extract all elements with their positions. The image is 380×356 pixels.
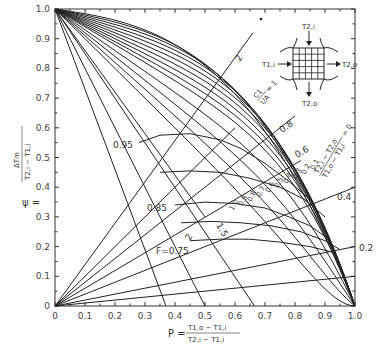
svg-text:T2,i − T1,i: T2,i − T1,i bbox=[187, 336, 224, 344]
svg-text:T1,o − T1,i: T1,o − T1,i bbox=[187, 324, 227, 332]
arrow-right-icon bbox=[287, 61, 292, 67]
ntu-label-0-8: 0.8 bbox=[277, 118, 295, 135]
y-tick-label: 0.4 bbox=[36, 182, 51, 192]
ntu-label-2: 2 bbox=[233, 53, 245, 63]
svg-text:ΔTm: ΔTm bbox=[13, 152, 21, 168]
arrow-down-icon bbox=[306, 92, 312, 97]
x-tick-label: 0.8 bbox=[288, 311, 303, 321]
f-label-0-75: F=0.75 bbox=[156, 246, 189, 256]
x-tick-label: 0.7 bbox=[258, 311, 272, 321]
x-tick-label: 0.9 bbox=[318, 311, 333, 321]
stray-dot bbox=[260, 18, 263, 21]
inset-label-bottom: T2,o bbox=[301, 100, 317, 108]
f-label-0-85: 0.85 bbox=[147, 203, 167, 213]
y-tick-label: 0.9 bbox=[36, 34, 51, 44]
ntu-line bbox=[55, 33, 253, 306]
x-tick-label: 1.0 bbox=[348, 311, 363, 321]
crossflow-exchanger-diagram: T2,i T1,i T2,o T2,o bbox=[261, 23, 357, 108]
y-tick-label: 0.8 bbox=[36, 63, 51, 73]
f-curve bbox=[181, 221, 340, 249]
y-tick-label: 0.3 bbox=[36, 212, 50, 222]
y-tick-label: 1.0 bbox=[36, 4, 51, 14]
svg-text:ψ =: ψ = bbox=[22, 197, 40, 208]
y-tick-label: 0.5 bbox=[36, 153, 50, 163]
x-tick-label: 0.1 bbox=[78, 311, 92, 321]
y-tick-label: 0.7 bbox=[36, 93, 50, 103]
y-axis-title: ψ = ΔTm T2,i − T1,i bbox=[13, 126, 40, 208]
inset-label-left: T1,i bbox=[261, 61, 275, 69]
ntu-line bbox=[55, 128, 235, 306]
y-tick-label: 0.6 bbox=[36, 123, 51, 133]
x-tick-label: 0.6 bbox=[228, 311, 243, 321]
svg-text:= 1: = 1 bbox=[264, 79, 278, 94]
x-tick-label: 0 bbox=[52, 311, 58, 321]
r-line bbox=[55, 9, 205, 217]
exchanger-grid bbox=[293, 48, 324, 79]
ntu-label-0-2: 0.2 bbox=[359, 243, 373, 253]
ntu-line bbox=[55, 276, 355, 306]
inset-label-right: T2,o bbox=[341, 61, 357, 69]
inset-label-top: T2,i bbox=[301, 23, 315, 31]
arrow-down-icon bbox=[306, 41, 312, 46]
y-tick-label: 0.2 bbox=[36, 242, 50, 252]
chart-canvas: 00.10.20.30.40.50.60.70.80.91.000.10.20.… bbox=[0, 0, 380, 356]
ntu-label-1: C1 UA = 1 bbox=[251, 76, 281, 107]
r-value-labels: 1.00.90.80.70.60.50.40.30.20.1 bbox=[228, 158, 321, 212]
x-axis-title: P = T1,o − T1,i T2,i − T1,i bbox=[168, 324, 240, 344]
r-parameter-label: T2,i − T2,o T1,o − T1,i = 0 bbox=[313, 120, 357, 180]
f-curve bbox=[190, 239, 334, 252]
arrow-right-icon bbox=[336, 61, 341, 67]
ntu-label-0-4: 0.4 bbox=[337, 192, 352, 202]
ntu-line bbox=[55, 247, 355, 306]
y-tick-label: 0 bbox=[44, 301, 50, 311]
x-tick-label: 0.4 bbox=[168, 311, 183, 321]
svg-text:P =: P = bbox=[168, 328, 186, 339]
ntu-label-0-6: 0.6 bbox=[293, 144, 311, 160]
y-tick-label: 0.1 bbox=[36, 271, 50, 281]
svg-text:= 0: = 0 bbox=[340, 123, 353, 138]
x-tick-label: 0.3 bbox=[138, 311, 152, 321]
svg-text:T2,i − T1,i: T2,i − T1,i bbox=[24, 144, 32, 181]
steep-label-1-5: 1.5 bbox=[214, 221, 230, 238]
ntu-line bbox=[55, 116, 295, 306]
x-tick-label: 0.5 bbox=[198, 311, 212, 321]
x-tick-label: 0.2 bbox=[108, 311, 122, 321]
f-label-0-95: 0.95 bbox=[113, 140, 133, 150]
